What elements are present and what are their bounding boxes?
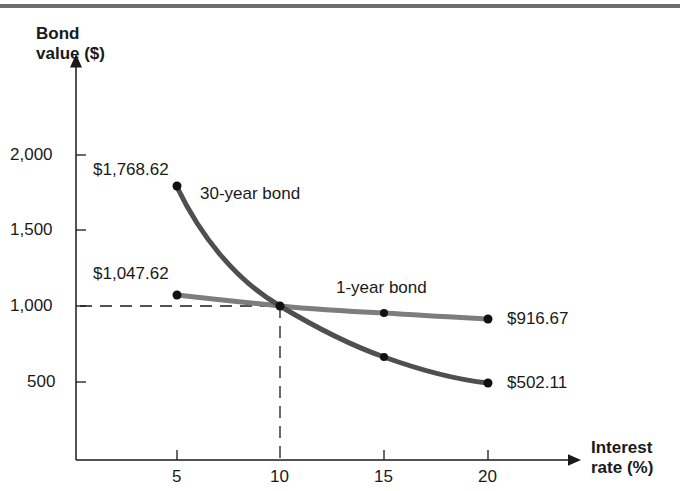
x-tick-5: 5 — [172, 467, 181, 487]
chart-canvas — [0, 0, 680, 491]
y-axis-title-2: value ($) — [36, 44, 105, 64]
annotation-1768: $1,768.62 — [93, 160, 169, 180]
series-1-year-bond — [177, 295, 488, 319]
x-axis-title-1: Interest — [591, 438, 652, 458]
annotation-502: $502.11 — [507, 373, 567, 393]
y-tick-2000: 2,000 — [10, 145, 53, 165]
y-tick-500: 500 — [27, 372, 55, 392]
x-tick-15: 15 — [374, 467, 393, 487]
x-tick-10: 10 — [270, 467, 289, 487]
x-tick-20: 20 — [478, 467, 497, 487]
annotation-1047: $1,047.62 — [93, 264, 169, 284]
y-axis-title-1: Bond — [36, 24, 79, 44]
label-30-year-bond: 30-year bond — [200, 184, 300, 204]
x-axis-title-2: rate (%) — [591, 458, 653, 478]
y-tick-1000: 1,000 — [10, 296, 53, 316]
annotation-916: $916.67 — [507, 309, 568, 329]
y-tick-1500: 1,500 — [10, 220, 53, 240]
series-30-year-bond — [177, 187, 488, 383]
label-1-year-bond: 1-year bond — [336, 278, 427, 298]
